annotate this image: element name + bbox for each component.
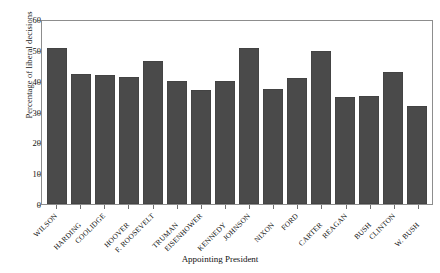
bar <box>167 81 187 204</box>
bar <box>335 97 355 204</box>
bar <box>407 106 427 205</box>
bar-cell <box>165 21 189 204</box>
bar-chart-figure: Percentage of liberal decisions 01020304… <box>0 0 440 273</box>
x-axis-title: Appointing President <box>0 254 440 264</box>
x-axis-tick-mark <box>249 205 250 209</box>
bar <box>71 74 91 204</box>
bar <box>311 51 331 204</box>
bar <box>215 81 235 204</box>
x-axis-tick-mark <box>418 205 419 209</box>
bar <box>95 75 115 204</box>
x-axis-tick-mark <box>80 205 81 209</box>
bar-cell <box>213 21 237 204</box>
bar-cell <box>141 21 165 204</box>
bar-cell <box>237 21 261 204</box>
bar <box>119 77 139 204</box>
x-axis-tick-mark <box>153 205 154 209</box>
bar <box>359 96 379 204</box>
x-axis-tick-mark <box>370 205 371 209</box>
x-axis-tick-mark <box>394 205 395 209</box>
bar-cell <box>261 21 285 204</box>
bars-container <box>42 21 432 204</box>
y-axis-tick-mark <box>37 205 41 206</box>
bar-cell <box>69 21 93 204</box>
x-axis-tick-mark <box>273 205 274 209</box>
plot-area <box>41 20 433 205</box>
bar <box>287 78 307 204</box>
bar <box>191 90 211 204</box>
bar-cell <box>333 21 357 204</box>
x-axis-tick-mark <box>346 205 347 209</box>
bar <box>383 72 403 204</box>
bar-cell <box>189 21 213 204</box>
x-axis-tick-mark <box>201 205 202 209</box>
bar-cell <box>117 21 141 204</box>
x-axis-tick-mark <box>128 205 129 209</box>
x-axis-tick-mark <box>104 205 105 209</box>
bar <box>263 89 283 204</box>
x-axis-tick-mark <box>297 205 298 209</box>
bar <box>239 48 259 204</box>
x-axis-tick-mark <box>177 205 178 209</box>
bar <box>143 61 163 204</box>
bar-cell <box>285 21 309 204</box>
bar-cell <box>309 21 333 204</box>
bar <box>47 48 67 204</box>
bar-cell <box>93 21 117 204</box>
bar-cell <box>405 21 429 204</box>
x-axis-tick-mark <box>56 205 57 209</box>
bar-cell <box>381 21 405 204</box>
bar-cell <box>357 21 381 204</box>
x-axis-tick-mark <box>225 205 226 209</box>
x-axis-tick-mark <box>321 205 322 209</box>
bar-cell <box>45 21 69 204</box>
